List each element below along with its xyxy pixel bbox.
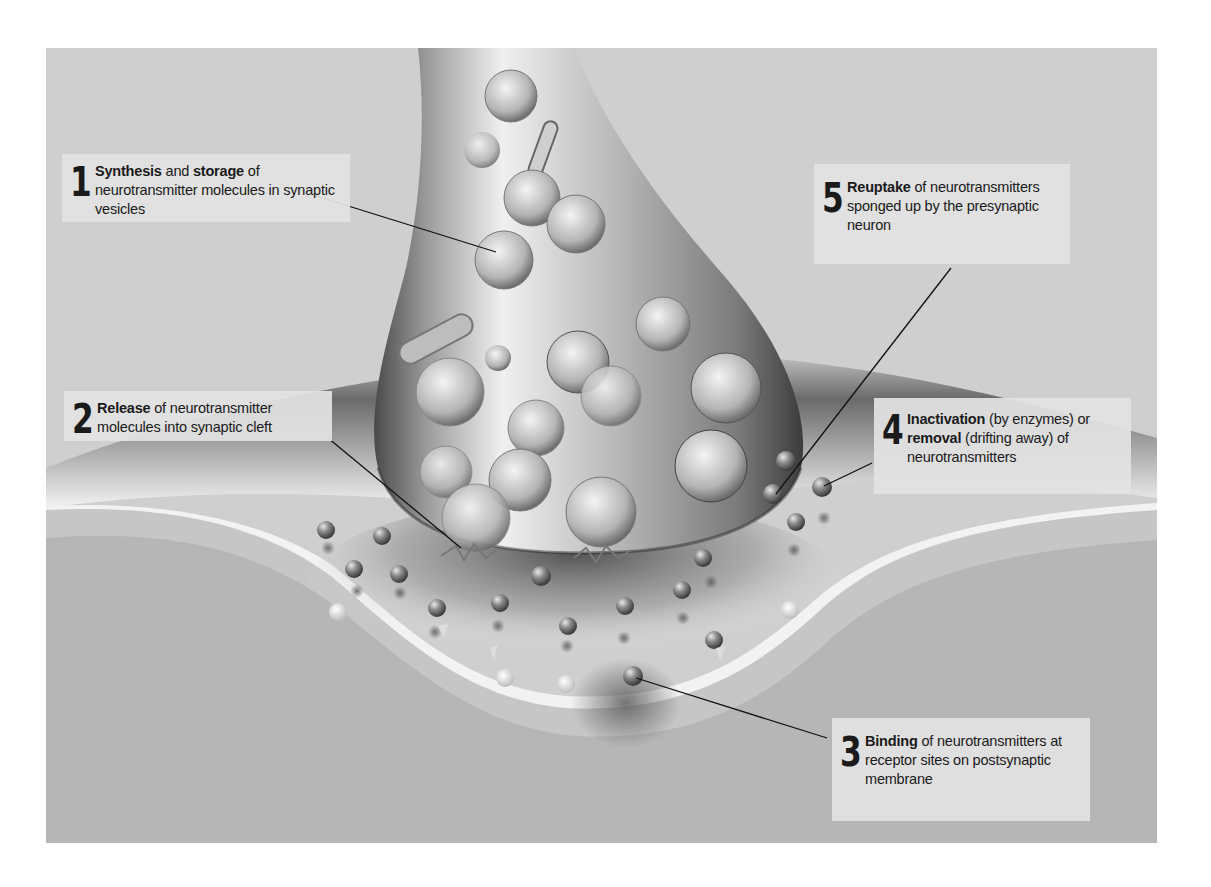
label-binding: 3 Binding of neurotransmitters at recept… [832,718,1090,821]
label-text-part: (by enzymes) or [985,411,1090,427]
label-keyword: Release [97,400,150,416]
label-keyword: storage [193,163,244,179]
label-keyword: Inactivation [907,411,985,427]
label-synthesis-storage: 1 Synthesis and storage of neurotransmit… [62,154,350,222]
label-keyword: Binding [865,733,918,749]
step-number: 1 [70,164,87,200]
label-release: 2 Release of neurotransmitter molecules … [64,391,332,441]
step-number: 3 [840,734,857,770]
label-keyword: Reuptake [847,179,911,195]
label-inactivation-removal: 4 Inactivation (by enzymes) or removal (… [874,398,1131,494]
synapse-diagram: 1 Synthesis and storage of neurotransmit… [46,48,1157,843]
label-text: Binding of neurotransmitters at receptor… [865,732,1080,789]
label-text: Release of neurotransmitter molecules in… [97,399,322,437]
step-number: 4 [882,412,899,448]
step-number: 2 [72,401,89,437]
label-keyword: Synthesis [95,163,162,179]
label-text: Reuptake of neurotransmitters sponged up… [847,178,1060,235]
step-number: 5 [822,180,839,216]
label-reuptake: 5 Reuptake of neurotransmitters sponged … [814,164,1070,264]
label-text: Inactivation (by enzymes) or removal (dr… [907,410,1121,467]
label-text: Synthesis and storage of neurotransmitte… [95,162,340,219]
label-keyword: removal [907,430,961,446]
label-text-part: and [162,163,193,179]
